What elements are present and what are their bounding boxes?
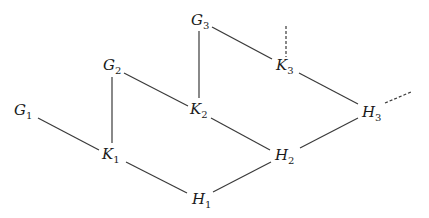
node-g2: G2 <box>103 56 121 76</box>
edge-k1-h1 <box>126 162 187 193</box>
node-g1: G1 <box>14 101 32 121</box>
edge-h3-continuation <box>385 92 411 103</box>
node-k1: K1 <box>101 145 120 165</box>
edge-g3-k3 <box>212 27 272 59</box>
nodes: G1 G2 G3 K1 K2 K3 H1 H2 H3 <box>14 11 381 210</box>
edge-h1-h2 <box>213 162 271 192</box>
edge-k2-h2 <box>211 118 270 150</box>
node-k2: K2 <box>189 100 208 120</box>
edge-k3-h3 <box>299 73 358 104</box>
node-g3: G3 <box>191 11 209 31</box>
node-h1: H1 <box>191 190 211 210</box>
edges <box>38 26 411 193</box>
node-h2: H2 <box>274 146 294 166</box>
edge-g2-k2 <box>124 73 188 106</box>
node-k3: K3 <box>275 56 294 76</box>
edge-h2-h3 <box>300 118 358 148</box>
edge-g1-k1 <box>38 118 99 150</box>
node-h3: H3 <box>361 103 381 123</box>
lattice-diagram: G1 G2 G3 K1 K2 K3 H1 H2 H3 <box>0 0 429 218</box>
